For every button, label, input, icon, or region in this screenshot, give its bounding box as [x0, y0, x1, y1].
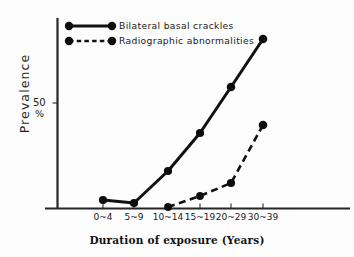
y-axis-tick-label-50: 50 [33, 97, 46, 108]
series-markers-radiographic-abnormalities [164, 121, 267, 211]
series-line-radiographic-abnormalities [168, 125, 263, 207]
x-axis-tick-label-30-39: 30~39 [248, 212, 278, 222]
chart-figure: Bilateral basal crackles Radiographic ab… [0, 0, 354, 257]
legend-label-radiographic-abnormalities: Radiographic abnormalities [119, 35, 254, 46]
series-line-bilateral-basal-crackles [103, 39, 263, 203]
x-axis-title: Duration of exposure (Years) [0, 234, 354, 246]
x-axis-tick-label-10-14: 10~14 [153, 212, 183, 222]
legend-sample-bilateral-basal-crackles [65, 22, 116, 30]
series-markers-bilateral-basal-crackles [99, 35, 267, 207]
x-axis-tick-label-0-4: 0~4 [94, 212, 113, 222]
x-axis-tick-label-15-19: 15~19 [185, 212, 215, 222]
y-axis-title: Prevalence [17, 46, 32, 142]
x-axis-tick-label-20-29: 20~29 [216, 212, 246, 222]
y-axis-unit-label: % [35, 108, 44, 119]
legend-sample-radiographic-abnormalities [65, 37, 116, 45]
x-axis-tick-label-5-9: 5~9 [125, 212, 144, 222]
legend-label-bilateral-basal-crackles: Bilateral basal crackles [119, 20, 234, 31]
